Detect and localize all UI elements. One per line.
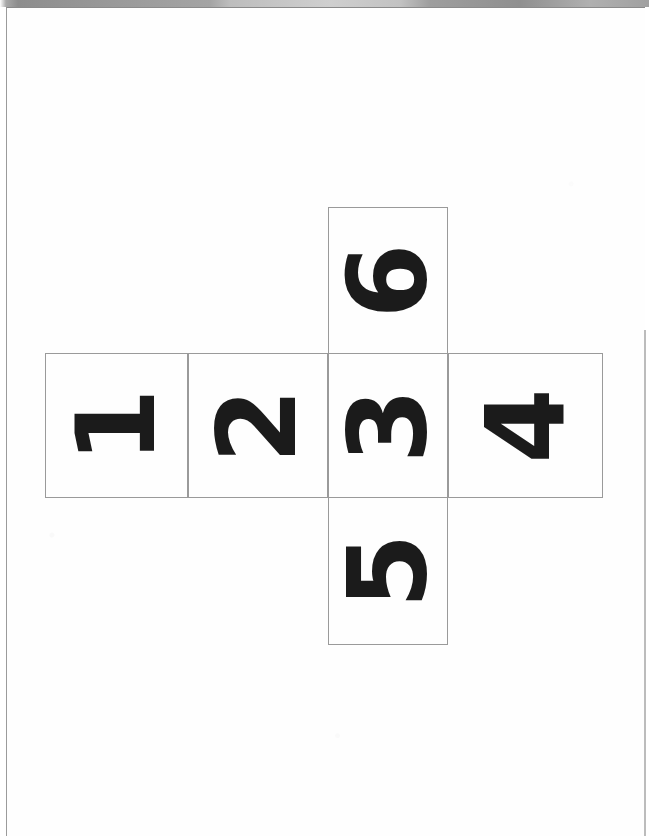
- scanned-page-canvas: 6 1 2 3 4 5: [0, 0, 649, 836]
- net-face-label-4: 4: [472, 388, 580, 463]
- net-face-far-left: 1: [45, 353, 188, 498]
- net-face-label-5: 5: [334, 533, 442, 608]
- net-face-bottom: 5: [328, 497, 448, 645]
- net-face-label-3: 3: [334, 388, 442, 463]
- net-face-left: 2: [188, 353, 328, 498]
- net-face-center: 3: [328, 353, 448, 498]
- cube-net-diagram: 6 1 2 3 4 5: [0, 0, 649, 836]
- net-face-label-1: 1: [63, 388, 171, 463]
- net-face-right: 4: [448, 353, 603, 498]
- net-face-label-2: 2: [204, 388, 312, 463]
- net-face-label-6: 6: [334, 243, 442, 318]
- net-face-top: 6: [328, 207, 448, 354]
